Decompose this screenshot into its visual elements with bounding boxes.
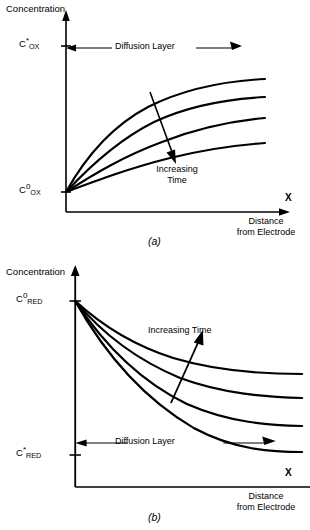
panel-b-axes <box>71 265 310 491</box>
panel-a-increasing-time-label: Increasing Time <box>142 165 212 185</box>
panel-a-time-arrow <box>150 92 176 164</box>
panel-a-x-axis-symbol: X <box>285 193 292 203</box>
panel-a-increasing-time-line2: Time <box>142 176 212 185</box>
curve-t4 <box>75 301 302 452</box>
panel-b-graphics <box>0 258 310 530</box>
panel-b: Concentration C0RED C*RED Increasing Tim… <box>0 258 310 530</box>
panel-b-tick-label-surface: C0RED <box>16 294 43 304</box>
panel-b-x-axis-label: Distance from Electrode <box>223 492 309 512</box>
panel-b-x-axis-symbol: X <box>285 468 292 478</box>
panel-a-increasing-time-line1: Increasing <box>142 165 212 174</box>
panel-b-caption: (b) <box>148 512 161 523</box>
panel-a-x-axis-label: Distance from Electrode <box>223 217 309 237</box>
panel-a-diffusion-layer-label: Diffusion Layer <box>115 42 175 51</box>
panel-a-x-axis-label-line1: Distance <box>223 217 309 226</box>
panel-a-caption: (a) <box>148 236 161 247</box>
panel-b-increasing-time-label: Increasing Time <box>148 326 212 335</box>
panel-a-x-axis-label-line2: from Electrode <box>223 228 309 237</box>
panel-b-tick-label-bulk: C*RED <box>16 448 41 458</box>
panel-b-x-axis-label-line1: Distance <box>223 492 309 501</box>
panel-a: Concentration C*OX C0OX Diffusion Layer … <box>0 0 310 258</box>
panel-b-y-axis-label: Concentration <box>6 267 65 277</box>
curve-t2 <box>75 301 302 398</box>
panel-a-y-axis-label: Concentration <box>6 4 65 14</box>
panel-b-time-arrow <box>171 330 203 403</box>
panel-b-x-axis-label-line2: from Electrode <box>223 503 309 512</box>
panel-b-diffusion-layer-label: Diffusion Layer <box>115 437 175 446</box>
panel-b-curves <box>75 301 302 452</box>
panel-a-tick-label-surface: C0OX <box>19 185 41 195</box>
figure-container: Concentration C*OX C0OX Diffusion Layer … <box>0 0 310 530</box>
panel-a-tick-label-bulk: C*OX <box>19 39 39 49</box>
panel-b-diffusion-arrow <box>75 437 276 447</box>
